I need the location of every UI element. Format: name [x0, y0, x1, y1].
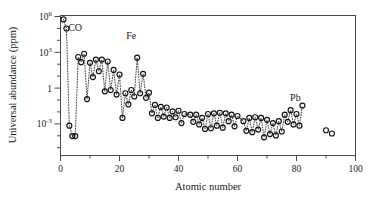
x-tick-label-60: 60	[233, 164, 243, 174]
svg-text:106: 106	[39, 10, 53, 22]
data-markers-group	[61, 17, 334, 140]
y-tick-base-1e6: 10	[39, 12, 49, 22]
abundance-scatter-chart: 106 103 1 10-3 Universal abundance (ppm)	[0, 0, 379, 201]
y-axis-ticks	[55, 17, 61, 148]
data-point	[173, 115, 178, 120]
y-tick-sup-1e3: 3	[49, 46, 53, 53]
y-axis-title: Universal abundance (ppm)	[7, 26, 19, 143]
x-axis-title: Atomic number	[175, 181, 242, 192]
annotation-co: CO	[68, 22, 82, 33]
data-point	[158, 104, 163, 109]
svg-text:10-3: 10-3	[37, 117, 53, 129]
y-tick-label-1: 1	[47, 84, 52, 94]
x-tick-label-100: 100	[348, 164, 363, 174]
svg-text:103: 103	[39, 46, 53, 58]
figure-container: 106 103 1 10-3 Universal abundance (ppm)	[0, 0, 379, 201]
y-tick-base-1em3: 10	[37, 119, 47, 129]
annotations-group: COFePb	[68, 22, 300, 103]
plot-frame	[61, 16, 356, 156]
x-tick-label-80: 80	[292, 164, 302, 174]
x-tick-labels: 0 20 40 60 80 100	[58, 164, 363, 174]
y-tick-sup-1e6: 6	[49, 10, 53, 17]
data-point	[200, 115, 205, 120]
data-point	[324, 128, 329, 133]
annotation-pb: Pb	[290, 92, 301, 103]
data-connector-line	[63, 19, 302, 137]
data-point	[241, 119, 246, 124]
x-axis-ticks	[61, 156, 356, 162]
data-point	[329, 131, 334, 136]
y-tick-labels: 106 103 1 10-3	[37, 10, 53, 129]
y-tick-base-1e3: 10	[39, 48, 49, 58]
annotation-fe: Fe	[126, 30, 137, 41]
x-tick-label-20: 20	[115, 164, 125, 174]
y-tick-sup-1em3: -3	[46, 117, 52, 124]
x-tick-label-40: 40	[174, 164, 184, 174]
x-tick-label-0: 0	[58, 164, 63, 174]
